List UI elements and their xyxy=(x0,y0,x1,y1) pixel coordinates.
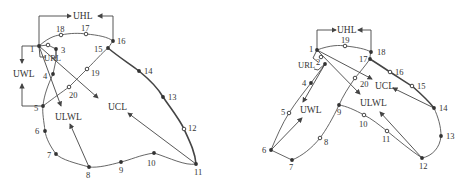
landmark-point xyxy=(410,84,414,88)
landmark-point xyxy=(51,72,55,76)
landmark-label: 8 xyxy=(324,137,328,147)
landmark-label: 1 xyxy=(30,44,34,54)
landmark-point xyxy=(182,127,186,131)
uhl-label: UHL xyxy=(337,25,357,35)
landmark-label: 14 xyxy=(144,66,153,76)
landmark-point xyxy=(152,151,156,155)
landmark-point xyxy=(194,162,198,166)
landmark-label: 7 xyxy=(289,162,293,172)
landmark-point xyxy=(67,85,71,89)
landmark-label: 9 xyxy=(119,165,123,175)
landmark-label: 20 xyxy=(360,79,369,89)
landmark-point xyxy=(287,111,291,115)
landmark-label: 11 xyxy=(382,134,390,144)
landmark-label: 6 xyxy=(262,145,266,155)
landmark-label: 15 xyxy=(417,81,426,91)
landmark-label: 19 xyxy=(91,68,100,78)
landmark-point xyxy=(315,48,319,52)
landmark-label: 17 xyxy=(81,23,90,33)
ucl-label: UCL xyxy=(108,102,127,112)
landmark-point xyxy=(369,50,373,54)
ucl-label: UCL xyxy=(375,81,394,91)
url-label: URL xyxy=(298,60,315,70)
landmark-label: 5 xyxy=(281,107,285,117)
ulwl-label: ULWL xyxy=(55,112,82,122)
landmark-label: 16 xyxy=(395,67,404,77)
landmark-point xyxy=(353,76,357,80)
landmark-point xyxy=(318,136,322,140)
landmark-label: 18 xyxy=(377,47,386,57)
landmark-point xyxy=(37,44,41,48)
landmark-point xyxy=(54,152,58,156)
landmark-point xyxy=(41,104,45,108)
landmark-point xyxy=(43,129,47,133)
landmark-label: 16 xyxy=(117,36,126,46)
uhl-arrow-right xyxy=(358,30,371,52)
landmark-label: 7 xyxy=(47,150,51,160)
loop-curve xyxy=(339,105,441,158)
landmark-point xyxy=(111,39,115,43)
landmark-point xyxy=(362,113,366,117)
left-diagram: UHL UWL URL UCL ULWL xyxy=(13,11,196,167)
landmark-point xyxy=(269,148,273,152)
landmark-label: 13 xyxy=(168,92,177,102)
landmark-point xyxy=(85,67,89,71)
ucl-arrow-from-14 xyxy=(393,88,434,108)
landmark-label: 3 xyxy=(61,45,65,55)
landmark-point xyxy=(368,57,372,61)
landmark-point xyxy=(323,62,327,66)
landmark-label: 18 xyxy=(56,24,65,34)
right-diagram: UHL URL UWL UCL ULWL xyxy=(271,25,441,160)
landmark-point xyxy=(87,165,91,169)
landmark-label: 9 xyxy=(337,107,341,117)
ulwl-arrow-from-8 xyxy=(70,124,89,167)
landmark-label: 17 xyxy=(359,54,368,64)
landmark-label: 10 xyxy=(359,119,368,129)
landmark-label: 20 xyxy=(69,90,78,100)
uwl-arrow-from-6 xyxy=(271,118,302,150)
landmark-point xyxy=(385,129,389,133)
landmark-label: 10 xyxy=(147,158,156,168)
uwl-label: UWL xyxy=(13,69,35,79)
landmark-label: 4 xyxy=(43,71,48,81)
landmark-point xyxy=(432,106,436,110)
landmark-point xyxy=(439,134,443,138)
landmark-label: 15 xyxy=(94,44,103,54)
landmark-label: 12 xyxy=(419,161,428,171)
landmark-point xyxy=(119,160,123,164)
landmark-label: 19 xyxy=(341,35,350,45)
landmark-label: 12 xyxy=(188,123,197,133)
uwl-arrow-bottom xyxy=(22,84,43,106)
landmark-label: 8 xyxy=(86,170,90,180)
landmark-point xyxy=(46,43,50,47)
ulwl-arrow-from-1 xyxy=(317,50,360,94)
landmark-label: 6 xyxy=(35,126,39,136)
landmark-point xyxy=(309,81,313,85)
uwl-label: UWL xyxy=(300,105,322,115)
landmark-label: 5 xyxy=(34,103,38,113)
landmark-point xyxy=(161,95,165,99)
diagram-canvas: UHL UWL URL UCL ULWL 1345678910111213141… xyxy=(0,0,461,188)
landmark-point xyxy=(54,47,58,51)
landmark-point xyxy=(420,156,424,160)
landmark-label: 1 xyxy=(309,44,313,54)
ulwl-label: ULWL xyxy=(360,98,387,108)
landmark-label: 14 xyxy=(439,103,448,113)
landmark-label: 13 xyxy=(446,131,455,141)
landmark-point xyxy=(137,69,141,73)
landmark-label: 2 xyxy=(316,57,320,67)
uhl-label: UHL xyxy=(73,11,93,21)
landmark-label: 11 xyxy=(194,167,202,177)
landmark-label: 4 xyxy=(302,78,307,88)
landmark-point xyxy=(388,70,392,74)
landmark-point xyxy=(106,46,110,50)
